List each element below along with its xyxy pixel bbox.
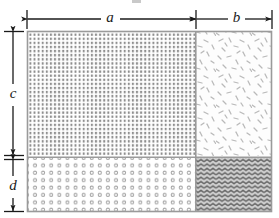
figure-canvas: a b c d xyxy=(0,0,279,218)
region-top-right-fill xyxy=(196,32,271,156)
dimensioned-rectangle-figure: a b c d xyxy=(0,0,279,218)
dimension-label-a: a xyxy=(106,9,114,25)
region-bottom-right-fill xyxy=(196,158,271,211)
top-crop-artifact xyxy=(132,0,141,3)
region-top-left-fill xyxy=(28,32,195,156)
region-group xyxy=(28,32,271,211)
dimension-label-d: d xyxy=(9,177,17,193)
region-bottom-left-fill xyxy=(28,158,195,211)
dimension-label-c: c xyxy=(10,85,17,101)
dimension-label-b: b xyxy=(233,9,241,25)
